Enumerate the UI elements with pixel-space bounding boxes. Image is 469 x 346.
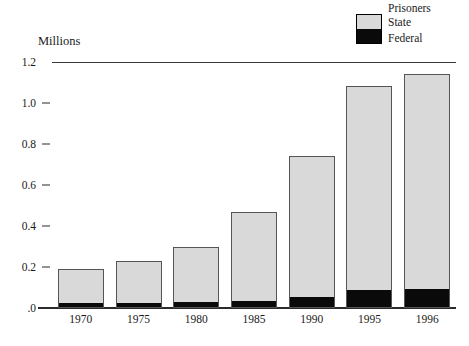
bar-segment-federal bbox=[117, 303, 161, 307]
x-tick-label: 1990 bbox=[300, 313, 323, 325]
bar-segment-federal bbox=[59, 303, 103, 307]
bar-1980 bbox=[173, 247, 219, 309]
bar-1995 bbox=[346, 86, 392, 308]
y-tick-label: 0.4 bbox=[22, 220, 36, 232]
bar-segment-federal bbox=[290, 297, 334, 307]
y-tick-label: .0 bbox=[27, 302, 36, 314]
y-axis-ticks bbox=[42, 62, 52, 308]
legend-title: Prisoners bbox=[388, 2, 431, 14]
bar-1975 bbox=[116, 261, 162, 308]
bar-segment-federal bbox=[405, 289, 449, 307]
prisoners-bar-chart: Prisoners State Federal Millions 1.21.00… bbox=[0, 0, 469, 346]
x-tick-label: 1995 bbox=[358, 313, 381, 325]
bar-segment-federal bbox=[347, 290, 391, 307]
plot-area bbox=[52, 62, 456, 308]
legend-swatch-state bbox=[357, 15, 381, 29]
y-tick-mark bbox=[42, 144, 50, 145]
y-tick-mark bbox=[42, 226, 50, 227]
y-tick-label: 0.8 bbox=[22, 138, 36, 150]
legend-swatch-federal bbox=[357, 29, 381, 43]
x-tick-label: 1980 bbox=[185, 313, 208, 325]
bar-segment-federal bbox=[232, 301, 276, 307]
legend-swatch bbox=[356, 14, 382, 44]
legend-item-state: State bbox=[388, 16, 411, 28]
x-tick-label: 1975 bbox=[127, 313, 150, 325]
bar-1985 bbox=[231, 212, 277, 308]
y-tick-mark bbox=[42, 103, 50, 104]
y-tick-label: 1.2 bbox=[22, 56, 36, 68]
x-tick-label: 1970 bbox=[69, 313, 92, 325]
x-tick-label: 1996 bbox=[416, 313, 439, 325]
y-tick-label: 0.2 bbox=[22, 261, 36, 273]
y-tick-mark bbox=[42, 185, 50, 186]
bar-segment-federal bbox=[174, 302, 218, 307]
bar-1970 bbox=[58, 269, 104, 308]
top-axis-line bbox=[52, 62, 456, 63]
bar-1990 bbox=[289, 156, 335, 308]
legend-item-federal: Federal bbox=[388, 32, 422, 44]
y-axis-title: Millions bbox=[38, 34, 80, 49]
bar-1996 bbox=[404, 74, 450, 308]
y-tick-mark bbox=[42, 267, 50, 268]
y-tick-label: 0.6 bbox=[22, 179, 36, 191]
chart-legend: Prisoners State Federal bbox=[356, 3, 468, 45]
y-tick-label: 1.0 bbox=[22, 97, 36, 109]
x-tick-label: 1985 bbox=[243, 313, 266, 325]
y-axis-labels: 1.21.00.80.60.40.2.0 bbox=[0, 62, 36, 308]
